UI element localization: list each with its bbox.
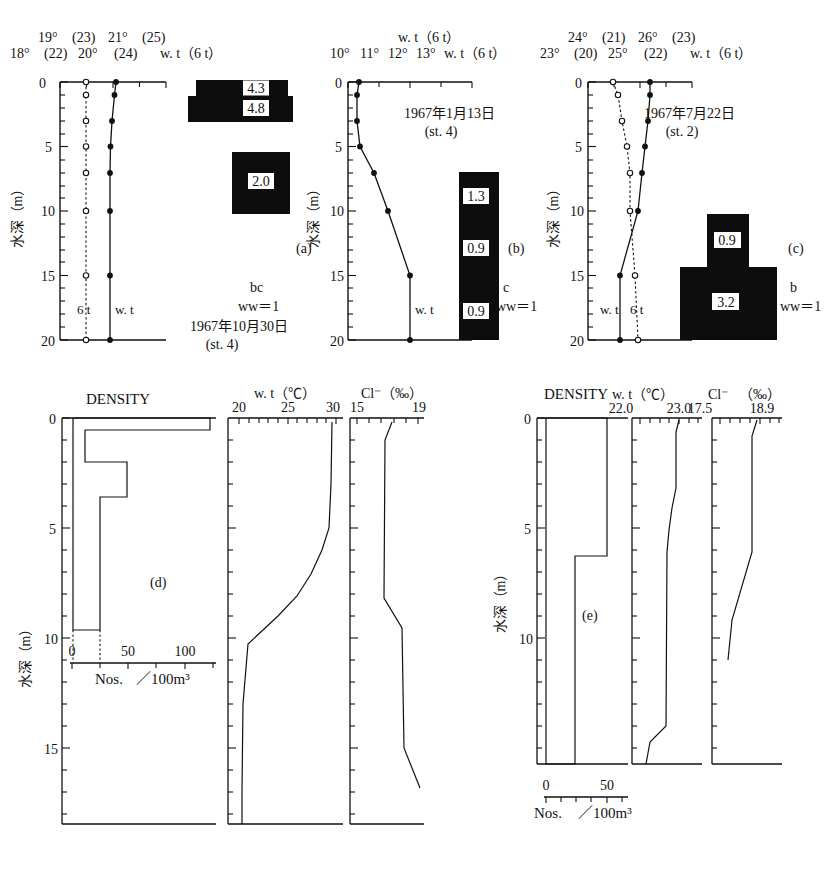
panel-d-density-steps	[73, 418, 210, 630]
panel-a-yaxis-title: 水深（m）	[10, 182, 25, 249]
panel-a-xtick-top-2: 21°	[108, 30, 128, 45]
panel-e-ytick-1: 5	[524, 522, 531, 537]
panel-c-ytick-0: 0	[575, 76, 582, 91]
panel-d-ytick-0: 0	[49, 412, 56, 427]
panel-b-ytick-3: 15	[330, 269, 344, 284]
panel-c-xtick-2: 25°	[608, 46, 628, 61]
panel-b-tag: (b)	[508, 241, 525, 257]
panel-b-ytick-0: 0	[335, 76, 342, 91]
panel-d-density-xlabel-right: ／100m³	[136, 671, 190, 687]
panel-c-ytick-1: 5	[575, 140, 582, 155]
panel-a-bars: 4.3 4.8 2.0	[188, 80, 293, 214]
panel-d-wt-xtick-1: 25	[281, 400, 295, 415]
panel-b-bar-value-1: 0.9	[467, 241, 485, 256]
panel-e-cl-xtick-0: 17.5	[688, 401, 713, 416]
panel-b-ytick-4: 20	[330, 334, 344, 349]
panel-b-series-wt	[357, 82, 410, 340]
panel-d-cl-xtick-1: 19	[412, 400, 426, 415]
panel-b-ww: ww＝1	[496, 299, 537, 314]
panel-e-tag: (e)	[582, 608, 598, 624]
panel-e-ytick-0: 0	[524, 412, 531, 427]
panel-b-label-wt: w. t	[415, 302, 434, 317]
panel-d-cl-curve	[384, 422, 420, 788]
panel-c-date: 1967年7月22日	[644, 106, 735, 121]
panel-c-station: (st. 2)	[666, 124, 699, 140]
panel-a-xtick-top-0: 19°	[38, 30, 58, 45]
panel-a-ytick-3: 15	[41, 269, 55, 284]
panel-b-xtick-2: 12°	[388, 46, 408, 61]
panel-e-density-xlabel-right: ／100m³	[578, 805, 632, 821]
panel-a-xtick-top-1: (23)	[72, 30, 96, 46]
panel-c-xtick-top-3: (23)	[672, 30, 696, 46]
panel-a-bar-value-1: 4.8	[247, 101, 265, 116]
panel-d-yticks	[62, 418, 70, 814]
panel-a-xtick-top-3: (25)	[142, 30, 166, 46]
panel-d-density-xtick-1: 50	[121, 644, 135, 659]
panel-b-bar-value-2: 0.9	[467, 304, 485, 319]
panel-b-bar-value-0: 1.3	[467, 189, 485, 204]
panel-a-xtick-3: (24)	[114, 46, 138, 62]
panel-b-ytick-1: 5	[335, 140, 342, 155]
panel-b-station: (st. 4)	[425, 124, 458, 140]
panel-e-cl-title: Cl⁻	[708, 387, 728, 402]
panel-b-date: 1967年1月13日	[404, 106, 495, 121]
panel-d-density-xtick-0: 0	[69, 644, 76, 659]
panel-b-xaxis-unit: w. t（6 t）	[444, 46, 506, 61]
panel-c-ytick-2: 10	[570, 204, 584, 219]
panel-e-density-steps	[546, 418, 607, 764]
panel-d: DENSITY 0 5 10 15 水深（m）	[18, 386, 426, 824]
panel-a-label-sigmat: 6 t	[77, 302, 91, 317]
panel-c-bar-value-0: 0.9	[718, 233, 736, 248]
panel-e-wt-xtick-0: 22.0	[609, 401, 634, 416]
panel-d-cl-xtick-0: 15	[350, 400, 364, 415]
panel-c-ytick-4: 20	[570, 334, 584, 349]
panel-b-xtick-0: 10°	[330, 46, 350, 61]
panel-c-bars: 0.9 3.2	[680, 214, 777, 340]
panel-e-density-xlabel-left: Nos.	[534, 805, 562, 821]
panel-a-xtick-1: (22)	[44, 46, 68, 62]
panel-e-wt-title: w. t（℃）	[612, 387, 674, 402]
panel-a-xtick-0: 18°	[10, 46, 30, 61]
panel-b-xaxis-unit-top: w. t（6 t）	[398, 30, 460, 45]
panel-a: 19° (23) 21° (25) 18° (22) 20° (24) w. t…	[10, 30, 312, 353]
panel-a-code: bc	[250, 280, 263, 295]
panel-e: DENSITY w. t（℃） Cl⁻ （‰） 0 5 10 水深（m） (e)…	[493, 386, 782, 821]
panel-d-density-xlabel-left: Nos.	[95, 671, 123, 687]
panel-d-yaxis-title: 水深（m）	[18, 622, 33, 689]
panel-a-ytick-0: 0	[39, 76, 46, 91]
panel-d-wt-title: w. t（℃）	[254, 386, 316, 401]
panel-b-code: c	[503, 280, 509, 295]
panel-c-label-sigmat: 6 t	[630, 302, 644, 317]
panel-e-ytick-2: 10	[519, 632, 533, 647]
panel-d-ytick-2: 10	[44, 632, 58, 647]
panel-a-date: 1967年10月30日	[190, 319, 288, 334]
panel-d-density-dotted	[73, 630, 100, 660]
panel-c-xtick-top-0: 24°	[568, 30, 588, 45]
panel-a-ytick-2: 10	[41, 204, 55, 219]
panel-c-label-wt: w. t	[600, 302, 619, 317]
panel-c: 24° (21) 26° (23) 23° (20) 25° (22) w. t…	[540, 30, 821, 349]
panel-b-xtick-1: 11°	[360, 46, 379, 61]
panel-d-wt-curve	[242, 422, 332, 824]
panel-c-ww: ww＝1	[780, 299, 821, 314]
panel-e-wt-curve	[646, 420, 679, 764]
panel-c-ytick-3: 15	[570, 269, 584, 284]
panel-e-cl-xtick-1: 18.9	[750, 401, 775, 416]
panel-d-ytick-3: 15	[44, 742, 58, 757]
panel-e-density-xtick-1: 50	[600, 778, 614, 793]
panel-b-xtick-3: 13°	[416, 46, 436, 61]
panel-d-cl-title: Cl⁻（‰）	[361, 386, 423, 401]
panel-a-ytick-1: 5	[45, 140, 52, 155]
panel-d-wt-xtick-2: 30	[326, 400, 340, 415]
panel-d-density-title: DENSITY	[86, 391, 150, 407]
panel-a-xaxis-unit: w. t（6 t）	[160, 46, 222, 61]
figure-svg: 19° (23) 21° (25) 18° (22) 20° (24) w. t…	[0, 0, 839, 875]
panel-c-xtick-top-1: (21)	[602, 30, 626, 46]
panel-a-ww: ww＝1	[238, 299, 279, 314]
panel-d-wt-xtick-0: 20	[232, 400, 246, 415]
panel-a-xtick-2: 20°	[78, 46, 98, 61]
panel-b: w. t（6 t） 10° 11° 12° 13° w. t（6 t）	[306, 30, 537, 349]
panel-a-bar-value-0: 4.3	[247, 81, 265, 96]
panel-a-bar-value-2: 2.0	[252, 174, 270, 189]
panel-b-ytick-2: 10	[330, 204, 344, 219]
